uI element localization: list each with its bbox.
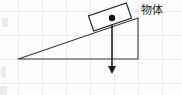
object-label: 物体 — [141, 3, 163, 17]
center-of-mass-dot — [109, 15, 115, 21]
inclined-plane-figure: 物体 — [0, 0, 182, 95]
inclined-plane — [18, 18, 138, 59]
figure-canvas: 物体 — [0, 0, 182, 95]
gravity-vector-arrowhead — [108, 66, 116, 74]
